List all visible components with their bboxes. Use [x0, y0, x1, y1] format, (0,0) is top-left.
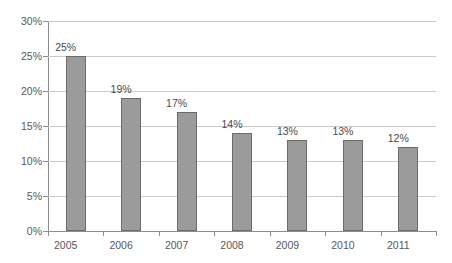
y-axis-label-5: 5%	[2, 191, 42, 201]
gridline-30	[48, 21, 436, 22]
bar-2008[interactable]	[232, 133, 252, 231]
bar-2010[interactable]	[343, 140, 363, 231]
y-axis-label-20: 20%	[2, 86, 42, 96]
x-axis-tick-4	[270, 231, 271, 236]
x-axis-line	[48, 231, 437, 232]
bar-2006[interactable]	[121, 98, 141, 231]
bar-chart: 30% 25% 20% 15% 10% 5% 0%	[0, 0, 452, 263]
y-axis-label-15: 15%	[2, 121, 42, 131]
x-axis-tick-5	[325, 231, 326, 236]
y-axis-label-25: 25%	[2, 51, 42, 61]
x-axis-tick-1	[103, 231, 104, 236]
x-axis-tick-7	[436, 231, 437, 236]
x-axis-label-2008: 2008	[212, 240, 252, 251]
value-label-2011: 12%	[378, 133, 418, 144]
x-axis-label-2005: 2005	[46, 240, 86, 251]
bar-2009[interactable]	[287, 140, 307, 231]
x-axis-tick-0	[48, 231, 49, 236]
y-axis-label-0: 0%	[2, 226, 42, 236]
x-axis-label-2011: 2011	[378, 240, 418, 251]
value-label-2007: 17%	[157, 98, 197, 109]
bar-2005[interactable]	[66, 56, 86, 231]
value-label-2006: 19%	[101, 84, 141, 95]
x-axis-tick-3	[214, 231, 215, 236]
x-axis-tick-2	[159, 231, 160, 236]
x-axis-label-2007: 2007	[157, 240, 197, 251]
x-axis-label-2006: 2006	[101, 240, 141, 251]
value-label-2005: 25%	[46, 42, 86, 53]
y-axis-label-10: 10%	[2, 156, 42, 166]
y-axis-label-30: 30%	[2, 16, 42, 26]
bar-2007[interactable]	[177, 112, 197, 231]
x-axis-label-2010: 2010	[323, 240, 363, 251]
value-label-2008: 14%	[212, 119, 252, 130]
gridline-25	[48, 56, 436, 57]
x-axis-label-2009: 2009	[267, 240, 307, 251]
y-axis-tick-labels: 30% 25% 20% 15% 10% 5% 0%	[0, 0, 42, 263]
value-label-2010: 13%	[323, 126, 363, 137]
bar-2011[interactable]	[398, 147, 418, 231]
value-label-2009: 13%	[267, 126, 307, 137]
x-axis-tick-6	[381, 231, 382, 236]
